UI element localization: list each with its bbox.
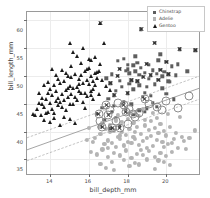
legend-item-gentoo[interactable]: Gentoo	[150, 23, 201, 29]
x-axis-tick-label: 18	[123, 178, 130, 184]
x-axis-tick-label: 16	[85, 178, 92, 184]
legend-item-adelie[interactable]: Adelie	[150, 16, 201, 22]
y-axis-tick-label: 40	[3, 139, 23, 145]
support-vector-marker	[158, 106, 167, 115]
decision-boundary-layer	[27, 12, 199, 174]
support-vector-marker	[113, 98, 122, 107]
support-vector-marker	[106, 105, 115, 114]
x-axis-title: bill_depth_mm	[26, 186, 200, 194]
y-axis-tick	[24, 104, 27, 105]
x-axis-tick	[50, 174, 51, 177]
legend-item-label: Adelie	[159, 16, 173, 22]
x-axis-tick	[166, 174, 167, 177]
y-axis-tick	[24, 76, 27, 77]
support-vector-marker	[96, 116, 105, 125]
square-icon	[150, 17, 159, 20]
legend-item-chinstrap[interactable]: Chinstrap	[150, 9, 201, 15]
x-axis-tick	[128, 174, 129, 177]
y-axis-tick	[24, 20, 27, 21]
y-axis-tick-label: 35	[3, 166, 23, 172]
y-axis-title: bill_length_mm	[7, 11, 15, 121]
support-vector-marker	[173, 104, 182, 113]
x-axis-tick-label: 20	[162, 178, 169, 184]
plot-area	[26, 11, 200, 175]
legend-item-label: Gentoo	[159, 23, 176, 29]
x-axis-tick-label: 14	[46, 178, 53, 184]
support-vector-marker	[111, 116, 120, 125]
scatter-plot-figure: 354045505560 14161820 bill_depth_mm bill…	[0, 0, 210, 198]
y-axis-tick	[24, 132, 27, 133]
support-vector-marker	[162, 96, 171, 105]
legend[interactable]: ChinstrapAdelieGentoo	[147, 6, 205, 32]
legend-item-label: Chinstrap	[159, 9, 181, 15]
square-icon	[150, 11, 159, 14]
x-axis-tick	[89, 174, 90, 177]
y-axis-tick	[24, 159, 27, 160]
support-vector-marker	[144, 100, 153, 109]
support-vector-marker	[185, 91, 194, 100]
support-vector-marker	[131, 113, 140, 122]
y-axis-tick	[24, 48, 27, 49]
support-vector-marker	[123, 120, 132, 129]
triangle-icon	[150, 24, 159, 28]
